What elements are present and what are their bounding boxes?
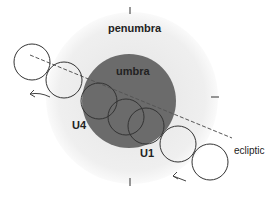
moon-outline [192,144,228,180]
penumbra-label: penumbra [108,22,162,34]
direction-arrow-bottom [173,172,186,181]
u1-label: U1 [140,147,154,159]
umbra-label: umbra [116,65,151,77]
u4-label: U4 [72,119,87,131]
moon-outline [14,44,50,80]
eclipse-diagram: penumbra umbra U4 U1 ecliptic [0,0,275,202]
ecliptic-label: ecliptic [234,145,265,156]
